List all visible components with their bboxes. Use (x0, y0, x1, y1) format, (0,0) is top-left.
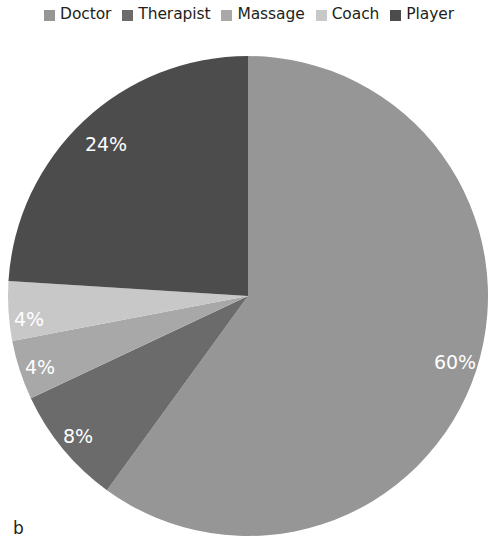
pie-slice-label: 4% (25, 356, 55, 378)
pie-slice-label: 4% (14, 308, 44, 330)
pie-slice[interactable] (8, 56, 248, 296)
pie-chart-svg: 60%8%4%4%24% (0, 0, 498, 555)
pie-slice-label: 60% (434, 351, 476, 373)
panel-label: b (13, 520, 24, 537)
pie-slices (8, 56, 488, 536)
pie-slice-label: 24% (85, 133, 127, 155)
pie-chart: 60%8%4%4%24% (0, 0, 498, 555)
pie-slice-label: 8% (63, 425, 93, 447)
